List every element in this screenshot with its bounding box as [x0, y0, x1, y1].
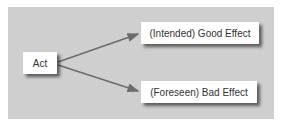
node-good-effect-label: (Intended) Good Effect: [150, 28, 251, 39]
node-bad-effect-label: (Foreseen) Bad Effect: [150, 87, 248, 98]
node-bad-effect: (Foreseen) Bad Effect: [141, 81, 257, 103]
node-good-effect: (Intended) Good Effect: [141, 22, 259, 44]
arrow-act-to-good: [58, 34, 138, 62]
node-act: Act: [23, 52, 57, 74]
arrow-act-to-bad: [58, 65, 138, 91]
node-act-label: Act: [33, 58, 47, 69]
